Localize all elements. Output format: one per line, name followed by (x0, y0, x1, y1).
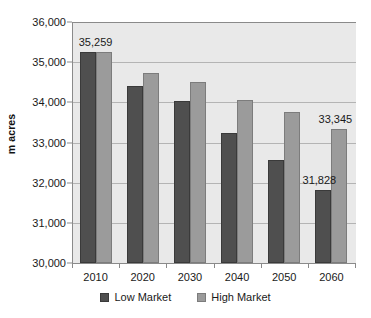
x-axis-tick-mark (308, 263, 309, 268)
bar-2050-high-market (284, 112, 300, 263)
x-axis-tick-mark (214, 263, 215, 268)
bar-2060-high-market (331, 129, 347, 263)
y-axis-tick-mark (67, 263, 72, 264)
bar-group (221, 22, 253, 263)
bars-layer (72, 22, 355, 263)
y-axis-tick-mark (67, 182, 72, 183)
bar-2030-high-market (190, 82, 206, 263)
x-axis-tick-mark (355, 263, 356, 268)
data-label: 35,259 (79, 36, 113, 48)
bar-2010-high-market (96, 52, 112, 263)
legend-label: High Market (211, 291, 270, 303)
bar-2060-low-market (315, 190, 331, 263)
chart-legend: Low MarketHigh Market (0, 291, 371, 303)
y-axis-tick-mark (67, 102, 72, 103)
x-axis-tick-mark (119, 263, 120, 268)
bar-group (268, 22, 300, 263)
bar-2020-high-market (143, 73, 159, 263)
legend-swatch-icon (197, 293, 206, 302)
y-axis-tick-label: 36,000 (12, 16, 66, 28)
x-axis-tick-mark (72, 263, 73, 268)
y-axis-tick-label: 33,000 (12, 137, 66, 149)
x-axis-tick-label-2060: 2060 (301, 271, 361, 283)
x-axis-tick-mark (166, 263, 167, 268)
bar-chart: m acres 36,00035,00034,00033,00032,00031… (0, 0, 371, 318)
bar-2010-low-market (80, 52, 96, 263)
bar-2040-high-market (237, 100, 253, 263)
bar-group (80, 22, 112, 263)
bar-2050-low-market (268, 160, 284, 263)
y-axis-tick-label: 30,000 (12, 257, 66, 269)
y-axis-tick-label: 35,000 (12, 56, 66, 68)
data-label: 33,345 (319, 113, 353, 125)
y-axis-tick-mark (67, 62, 72, 63)
y-axis-tick-label: 32,000 (12, 177, 66, 189)
bar-2030-low-market (174, 101, 190, 263)
legend-item-high-market[interactable]: High Market (197, 291, 270, 303)
y-axis-tick-mark (67, 222, 72, 223)
bar-group (315, 22, 347, 263)
data-label: 31,828 (303, 174, 337, 186)
legend-item-low-market[interactable]: Low Market (100, 291, 171, 303)
y-axis-tick-labels: 36,00035,00034,00033,00032,00031,00030,0… (12, 0, 66, 318)
bar-group (174, 22, 206, 263)
legend-swatch-icon (100, 293, 109, 302)
bar-2020-low-market (127, 86, 143, 263)
bar-group (127, 22, 159, 263)
y-axis-tick-label: 34,000 (12, 96, 66, 108)
y-axis-tick-label: 31,000 (12, 217, 66, 229)
y-axis-tick-mark (67, 142, 72, 143)
legend-label: Low Market (114, 291, 171, 303)
x-axis-tick-mark (261, 263, 262, 268)
y-axis-tick-mark (67, 22, 72, 23)
bar-2040-low-market (221, 133, 237, 263)
